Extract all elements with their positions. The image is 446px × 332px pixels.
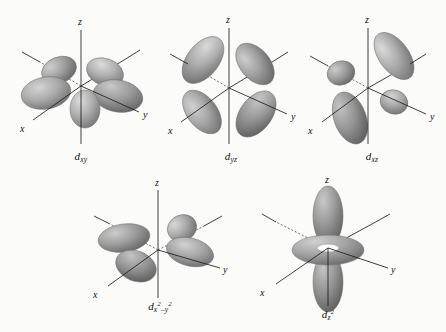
caption-subscript: xz <box>371 155 378 164</box>
lobe-front-center <box>70 90 100 128</box>
lobe-along-x-back <box>96 221 151 256</box>
axis-label-x: x <box>92 289 98 300</box>
axis-label-y: y <box>390 264 396 275</box>
orbital-dxy-caption: dxy <box>6 150 156 164</box>
orbital-dyz: z y x dyz <box>156 8 306 170</box>
orbital-dxy: z y x dxy <box>6 8 156 170</box>
orbital-dx2-y2-caption: dx2–y2 <box>80 300 240 314</box>
orbital-dxy-drawing: z y x <box>6 8 156 170</box>
axis-x-tip <box>310 56 328 66</box>
axis-label-y: y <box>142 109 148 120</box>
caption-subscript: yz <box>230 155 237 164</box>
lobe-upper-right <box>366 25 422 86</box>
orbital-dz2: z y x dz2 <box>248 172 408 332</box>
axis-y-tip <box>124 50 140 60</box>
axis-label-x: x <box>19 123 25 134</box>
axis-label-x: x <box>167 125 173 136</box>
caption-subscript: xy <box>80 155 87 164</box>
axis-label-x: x <box>259 287 265 298</box>
axis-label-y: y <box>222 264 228 275</box>
axis-x-tip <box>262 214 276 222</box>
lobe-lower-left <box>326 87 375 149</box>
axis-label-z: z <box>77 16 82 27</box>
caption-exponent: 2 <box>331 308 334 315</box>
axis-x-tip <box>94 216 110 224</box>
orbital-dxz-drawing: z y x <box>298 8 446 170</box>
orbital-dyz-drawing: z y x <box>156 8 306 170</box>
axis-label-y: y <box>429 111 435 122</box>
orbital-dxz: z y x dxz <box>298 8 446 170</box>
orbital-dxz-caption: dxz <box>298 150 446 164</box>
orbital-dyz-caption: dyz <box>156 150 306 164</box>
lobe-lower-right <box>377 86 411 117</box>
axis-label-z: z <box>364 14 369 25</box>
axis-label-z: z <box>225 14 230 25</box>
axis-y-tip <box>204 216 222 226</box>
orbital-dx2-y2: z y x dx2–y2 <box>80 172 240 332</box>
axis-label-y: y <box>290 111 296 122</box>
lobe-upper-left <box>174 29 232 91</box>
axis-label-z: z <box>324 174 329 185</box>
lobe-lower-left <box>175 83 229 141</box>
caption-exponent-y: 2 <box>168 300 171 307</box>
d-orbital-figure: z y x dxy <box>0 0 446 332</box>
axis-y-tip <box>272 52 288 62</box>
orbital-dz2-caption: dz2 <box>248 308 408 322</box>
axis-x-tip <box>22 52 40 62</box>
lobe-upper-left <box>324 57 358 88</box>
axis-label-z: z <box>154 177 159 188</box>
axis-label-x: x <box>307 125 313 136</box>
axis-y-tip <box>372 214 390 224</box>
lobe-lower-right <box>228 84 284 145</box>
